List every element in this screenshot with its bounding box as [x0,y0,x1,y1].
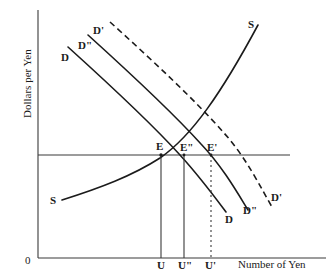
demand-curve-d [68,47,226,212]
demand-label-d-double-prime-top: D" [78,40,92,51]
equilibrium-point-e [159,153,162,156]
x-tick-label-u-prime: U' [205,260,216,271]
origin-label: 0 [25,255,31,266]
demand-label-d-top: D [61,52,69,63]
demand-curve-d-double-prime [88,35,248,210]
demand-label-d-bottom: D [225,214,233,225]
x-tick-label-u: U [157,260,165,271]
economics-supply-demand-chart: Dollars per Yen Number of Yen 0 D D" D' … [0,0,326,275]
equilibrium-label-e-double-prime: E" [180,142,193,153]
demand-curve-d-prime [110,22,272,207]
equilibrium-point-e-double-prime [183,154,186,157]
demand-label-d-double-prime-bottom: D" [243,205,257,216]
y-axis-title: Dollars per Yen [22,49,33,118]
equilibrium-point-e-prime [210,154,213,157]
equilibrium-label-e: E [156,141,163,152]
demand-label-d-prime-bottom: D' [271,192,282,203]
supply-label-bottom: S [50,195,56,206]
supply-curve [62,25,258,200]
x-axis-title: Number of Yen [238,259,306,270]
x-tick-label-u-double-prime: U" [178,260,192,271]
chart-plot-area [0,0,326,275]
supply-label-top: S [248,19,254,30]
demand-label-d-prime-top: D' [93,25,104,36]
equilibrium-label-e-prime: E' [207,142,217,153]
